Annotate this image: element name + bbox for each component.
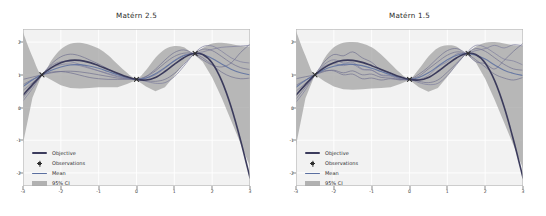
panel-matern-25: Matérn 2.5 ObjectiveObservationsMean95% … (0, 0, 273, 216)
legend-band-swatch (32, 181, 47, 186)
legend-line-swatch (305, 173, 320, 174)
x-tick-mark (333, 186, 334, 190)
legend: ObjectiveObservationsMean95% CI (304, 148, 382, 189)
y-tick-mark (19, 140, 23, 141)
panel-matern-15: Matérn 1.5 ObjectiveObservationsMean95% … (273, 0, 546, 216)
x-tick-mark (409, 186, 410, 190)
x-tick-mark (485, 186, 486, 190)
legend-key-line (31, 148, 48, 158)
panel-title: Matérn 2.5 (0, 11, 273, 20)
legend-label: Observations (325, 161, 358, 166)
gp-regression-figure: Matérn 2.5 ObjectiveObservationsMean95% … (0, 0, 546, 216)
legend-label: Objective (325, 151, 349, 156)
legend-key-line (304, 148, 321, 158)
x-tick-mark (523, 186, 524, 190)
observation-marker-icon (311, 162, 314, 165)
y-tick-mark (292, 74, 296, 75)
y-tick-mark (292, 172, 296, 173)
x-tick-mark (296, 186, 297, 190)
legend-key-marker (31, 158, 48, 168)
legend-line-swatch (32, 152, 47, 154)
legend-key-patch (31, 179, 48, 189)
legend-label: Mean (52, 171, 66, 176)
x-tick-mark (212, 186, 213, 190)
x-tick-mark (98, 186, 99, 190)
y-tick-mark (292, 107, 296, 108)
y-tick-mark (19, 74, 23, 75)
x-tick-mark (174, 186, 175, 190)
x-tick-mark (136, 186, 137, 190)
legend-key-line (31, 168, 48, 178)
x-tick-mark (23, 186, 24, 190)
legend-label: Observations (52, 161, 85, 166)
legend-key-marker (304, 158, 321, 168)
legend-line-swatch (32, 173, 47, 174)
y-tick-mark (19, 42, 23, 43)
legend-item[interactable]: Observations (304, 158, 382, 168)
legend-key-line (304, 168, 321, 178)
legend-item[interactable]: Objective (304, 148, 382, 158)
legend-item[interactable]: Mean (304, 168, 382, 178)
x-tick-mark (447, 186, 448, 190)
x-tick-mark (371, 186, 372, 190)
legend-item[interactable]: Mean (31, 168, 109, 178)
legend-key-patch (304, 179, 321, 189)
legend-item[interactable]: Observations (31, 158, 109, 168)
legend: ObjectiveObservationsMean95% CI (31, 148, 109, 189)
observation-marker-icon (38, 162, 41, 165)
legend-band-swatch (305, 181, 320, 186)
legend-line-swatch (305, 152, 320, 154)
y-tick-mark (19, 172, 23, 173)
y-tick-mark (292, 140, 296, 141)
legend-label: Mean (325, 171, 339, 176)
legend-item[interactable]: Objective (31, 148, 109, 158)
panel-title: Matérn 1.5 (273, 11, 546, 20)
legend-label: Objective (52, 151, 76, 156)
x-tick-mark (60, 186, 61, 190)
y-tick-mark (292, 42, 296, 43)
y-tick-mark (19, 107, 23, 108)
x-tick-mark (250, 186, 251, 190)
